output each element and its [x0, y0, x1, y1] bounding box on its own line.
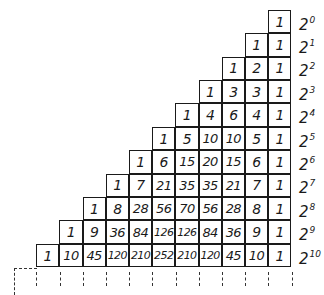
continuation-tick [60, 272, 61, 286]
triangle-cell: 56 [199, 197, 222, 220]
row-sum-label: 29 [299, 226, 315, 243]
triangle-cell: 1 [268, 197, 291, 220]
triangle-cell: 7 [129, 174, 152, 197]
triangle-cell: 1 [175, 103, 198, 126]
triangle-cell: 1 [268, 127, 291, 150]
power-exponent: 10 [310, 249, 321, 259]
triangle-cell: 20 [199, 150, 222, 173]
triangle-cell: 3 [245, 80, 268, 103]
triangle-cell: 1 [268, 33, 291, 56]
continuation-tick [245, 272, 246, 286]
triangle-cell: 10 [222, 127, 245, 150]
triangle-cell: 5 [175, 127, 198, 150]
triangle-cell: 36 [106, 220, 129, 243]
continuation-tick [292, 272, 293, 286]
power-exponent: 4 [310, 108, 316, 118]
triangle-cell: 1 [268, 244, 291, 267]
triangle-cell: 21 [152, 174, 175, 197]
triangle-cell: 1 [268, 174, 291, 197]
continuation-tick [268, 272, 269, 286]
power-exponent: 9 [310, 225, 316, 235]
triangle-cell: 1 [222, 57, 245, 80]
power-base: 2 [299, 156, 309, 174]
power-base: 2 [299, 133, 309, 151]
power-exponent: 6 [310, 155, 316, 165]
triangle-cell: 45 [222, 244, 245, 267]
row-sum-label: 210 [299, 250, 321, 267]
triangle-cell: 6 [222, 103, 245, 126]
triangle-cell: 1 [36, 244, 59, 267]
triangle-cell: 1 [268, 57, 291, 80]
power-exponent: 1 [310, 38, 316, 48]
continuation-tick [199, 272, 200, 286]
triangle-cell: 120 [199, 244, 222, 267]
triangle-cell: 4 [199, 103, 222, 126]
triangle-cell: 9 [245, 220, 268, 243]
triangle-cell: 1 [152, 127, 175, 150]
triangle-cell: 2 [245, 57, 268, 80]
triangle-cell: 1 [245, 33, 268, 56]
row-sum-label: 24 [299, 109, 315, 126]
row-sum-label: 22 [299, 62, 315, 79]
triangle-cell: 84 [129, 220, 152, 243]
power-base: 2 [299, 86, 309, 104]
continuation-tick [106, 272, 107, 286]
triangle-cell: 35 [199, 174, 222, 197]
row-sum-label: 27 [299, 179, 315, 196]
power-exponent: 3 [310, 85, 316, 95]
triangle-cell: 1 [268, 220, 291, 243]
triangle-cell: 70 [175, 197, 198, 220]
triangle-cell: 21 [222, 174, 245, 197]
row-sum-label: 26 [299, 156, 315, 173]
triangle-cell: 56 [152, 197, 175, 220]
row-sum-label: 23 [299, 86, 315, 103]
triangle-cell: 10 [245, 244, 268, 267]
triangle-cell: 1 [268, 103, 291, 126]
continuation-tick [36, 272, 37, 286]
power-base: 2 [299, 250, 309, 268]
continuation-tick [83, 272, 84, 286]
triangle-cell: 28 [222, 197, 245, 220]
row-sum-label: 21 [299, 39, 315, 56]
power-exponent: 8 [310, 202, 316, 212]
triangle-cell: 10 [59, 244, 82, 267]
triangle-cell: 1 [106, 174, 129, 197]
triangle-cell: 210 [129, 244, 152, 267]
pascal-triangle-diagram: 1201121121221331231464124151010512516152… [0, 0, 324, 295]
power-exponent: 5 [310, 132, 316, 142]
continuation-step-dash [14, 268, 37, 269]
triangle-cell: 36 [222, 220, 245, 243]
power-base: 2 [299, 226, 309, 244]
continuation-tick [129, 272, 130, 286]
triangle-cell: 3 [222, 80, 245, 103]
triangle-cell: 6 [245, 150, 268, 173]
power-exponent: 0 [310, 15, 316, 25]
triangle-cell: 120 [106, 244, 129, 267]
power-exponent: 2 [310, 61, 316, 71]
power-base: 2 [299, 109, 309, 127]
triangle-cell: 1 [199, 80, 222, 103]
power-base: 2 [299, 16, 309, 34]
continuation-tick [222, 272, 223, 286]
triangle-cell: 84 [199, 220, 222, 243]
triangle-cell: 15 [175, 150, 198, 173]
power-base: 2 [299, 39, 309, 57]
triangle-cell: 9 [83, 220, 106, 243]
continuation-tick [152, 272, 153, 286]
triangle-cell: 28 [129, 197, 152, 220]
triangle-cell: 8 [245, 197, 268, 220]
triangle-cell: 1 [59, 220, 82, 243]
triangle-cell: 126 [175, 220, 198, 243]
triangle-cell: 45 [83, 244, 106, 267]
triangle-cell: 15 [222, 150, 245, 173]
triangle-cell: 210 [175, 244, 198, 267]
triangle-cell: 8 [106, 197, 129, 220]
power-exponent: 7 [310, 178, 316, 188]
continuation-edge-dash [14, 268, 15, 295]
triangle-cell: 1 [83, 197, 106, 220]
triangle-cell: 1 [268, 80, 291, 103]
triangle-cell: 1 [268, 10, 291, 33]
triangle-cell: 252 [152, 244, 175, 267]
triangle-cell: 35 [175, 174, 198, 197]
power-base: 2 [299, 62, 309, 80]
